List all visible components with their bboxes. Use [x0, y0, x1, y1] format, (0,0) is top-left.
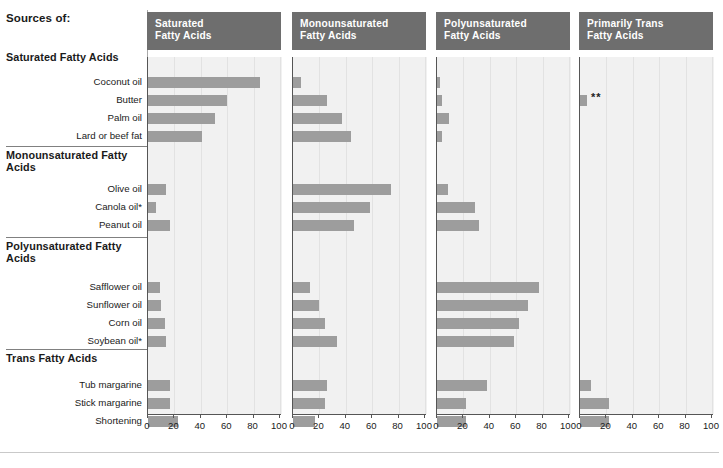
- x-axis-line: [436, 414, 570, 415]
- x-axis-tick-label: 20: [600, 420, 611, 431]
- bar: [293, 95, 327, 106]
- plot-area: [292, 57, 427, 414]
- gridline: [227, 57, 228, 414]
- bar: [148, 220, 170, 231]
- bar: [148, 380, 170, 391]
- row-label: Palm oil: [108, 112, 142, 123]
- x-axis-tick: [489, 414, 490, 418]
- row-label: Peanut oil: [99, 219, 142, 230]
- gridline: [372, 57, 373, 414]
- x-axis-tick: [345, 414, 346, 418]
- plot-area: [147, 57, 282, 414]
- row-label: Tub margarine: [79, 379, 142, 390]
- row-label: Corn oil: [109, 317, 142, 328]
- column-header-line2: Fatty Acids: [155, 30, 281, 42]
- bar: [148, 77, 260, 88]
- x-axis-tick: [579, 414, 580, 418]
- row-label: Canola oil*: [95, 201, 142, 212]
- x-axis-tick: [253, 414, 254, 418]
- x-axis-tick-label: 60: [366, 420, 377, 431]
- row-label: Olive oil: [108, 183, 142, 194]
- column-header-line1: Saturated: [155, 18, 281, 30]
- bar: [580, 380, 591, 391]
- plot-area: [436, 57, 571, 414]
- x-axis-tick: [279, 414, 280, 418]
- bar: [437, 113, 449, 124]
- bar: [437, 184, 448, 195]
- x-axis-tick: [147, 414, 148, 418]
- gridline: [543, 57, 544, 414]
- x-axis-tick-label: 0: [433, 420, 438, 431]
- x-axis-tick: [542, 414, 543, 418]
- x-axis-tick-label: 80: [392, 420, 403, 431]
- bar: [293, 131, 351, 142]
- bar: [148, 113, 215, 124]
- chart-column-1: SaturatedFatty Acids020406080100: [147, 0, 291, 432]
- gridline: [254, 57, 255, 414]
- gridline: [569, 57, 570, 414]
- bar: [293, 282, 310, 293]
- group-heading: Saturated Fatty Acids: [6, 52, 119, 64]
- column-header-line1: Primarily Trans: [587, 18, 713, 30]
- group-heading: Polyunsaturated Fatty Acids: [6, 241, 148, 264]
- bar: [437, 220, 479, 231]
- chart-column-2: MonounsaturatedFatty Acids020406080100: [292, 0, 436, 432]
- gridline: [606, 57, 607, 414]
- bar: [437, 318, 519, 329]
- bar: [437, 202, 475, 213]
- group-heading: Trans Fatty Acids: [6, 353, 97, 365]
- plot-area: [579, 57, 714, 414]
- gridline: [425, 57, 426, 414]
- group-separator: [6, 349, 148, 350]
- x-axis-tick: [568, 414, 569, 418]
- x-axis-tick-label: 0: [576, 420, 581, 431]
- x-axis-tick: [515, 414, 516, 418]
- x-axis-tick-label: 100: [416, 420, 432, 431]
- x-axis-tick-label: 100: [703, 420, 719, 431]
- column-header: MonounsaturatedFatty Acids: [292, 12, 426, 50]
- x-axis-tick: [605, 414, 606, 418]
- gridline: [201, 57, 202, 414]
- x-axis-tick-label: 60: [510, 420, 521, 431]
- bar: [293, 113, 342, 124]
- bar: [293, 416, 315, 427]
- gridline: [346, 57, 347, 414]
- chart-column-3: PolyunsaturatedFatty Acids020406080100: [436, 0, 580, 432]
- page-title: Sources of:: [6, 12, 70, 24]
- bar: [293, 77, 301, 88]
- x-axis-tick: [462, 414, 463, 418]
- x-axis-tick: [371, 414, 372, 418]
- bar: [293, 220, 354, 231]
- column-header: SaturatedFatty Acids: [147, 12, 281, 50]
- column-header-line2: Fatty Acids: [587, 30, 713, 42]
- x-axis-tick: [632, 414, 633, 418]
- row-label: Shortening: [95, 415, 142, 426]
- bar: [293, 202, 370, 213]
- bar: [580, 95, 587, 106]
- x-axis-tick-label: 100: [560, 420, 576, 431]
- x-axis-line: [147, 414, 281, 415]
- bar: [437, 380, 487, 391]
- bar: [148, 202, 156, 213]
- row-label: Soybean oil*: [88, 335, 142, 346]
- column-header-line2: Fatty Acids: [300, 30, 426, 42]
- column-header: PolyunsaturatedFatty Acids: [436, 12, 570, 50]
- x-axis-tick: [436, 414, 437, 418]
- bar: [148, 95, 227, 106]
- x-axis-tick: [658, 414, 659, 418]
- row-label: Coconut oil: [94, 76, 142, 87]
- gridline: [463, 57, 464, 414]
- bar: [580, 398, 609, 409]
- footer-divider: [0, 452, 719, 453]
- bar: [293, 300, 319, 311]
- group-separator: [6, 146, 148, 147]
- x-axis-tick: [200, 414, 201, 418]
- column-header: Primarily TransFatty Acids: [579, 12, 713, 50]
- row-label: Safflower oil: [89, 281, 142, 292]
- x-axis-tick-label: 40: [195, 420, 206, 431]
- x-axis-tick: [685, 414, 686, 418]
- x-axis-tick-label: 40: [627, 420, 638, 431]
- x-axis-tick: [173, 414, 174, 418]
- row-label: Sunflower oil: [87, 299, 142, 310]
